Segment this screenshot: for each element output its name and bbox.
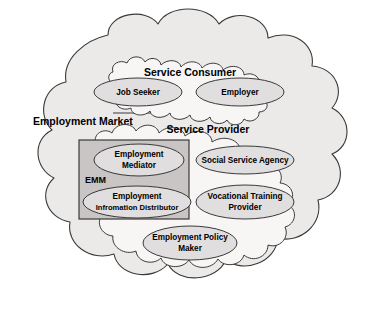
node-employment-information-distributor-label-line2: Infromation Distributor (96, 203, 179, 212)
node-vocational-training-provider-label-line1: Vocational Training (208, 192, 283, 201)
node-employment-information-distributor-shape (83, 186, 191, 218)
node-vocational-training-provider-shape (196, 185, 294, 219)
node-employment-mediator-label-line1: Employment (114, 150, 163, 159)
diagram-canvas: Employment Market Service Consumer Job S… (0, 0, 375, 313)
service-consumer-label: Service Consumer (144, 66, 236, 78)
node-employment-information-distributor-label-line1: Employment (112, 192, 161, 201)
node-employer-label: Employer (221, 88, 259, 97)
group-box-emm: EMM Employment Mediator Employment Infro… (79, 140, 191, 219)
node-employment-policy-maker-shape (143, 226, 237, 260)
node-employment-policy-maker-label-line1: Employment Policy (152, 233, 228, 242)
node-employment-policy-maker-label-line2: Maker (178, 244, 202, 253)
node-job-seeker-label: Job Seeker (116, 88, 161, 97)
node-employment-mediator-label-line2: Mediator (122, 161, 157, 170)
service-provider-label: Service Provider (167, 123, 250, 135)
emm-box-label: EMM (85, 175, 106, 185)
node-employment-mediator-shape (94, 144, 184, 176)
node-social-service-agency-label: Social Service Agency (201, 156, 289, 165)
outer-cloud-label: Employment Market (33, 115, 133, 127)
node-vocational-training-provider-label-line2: Provider (228, 203, 262, 212)
employment-market-diagram: Employment Market Service Consumer Job S… (0, 0, 375, 313)
